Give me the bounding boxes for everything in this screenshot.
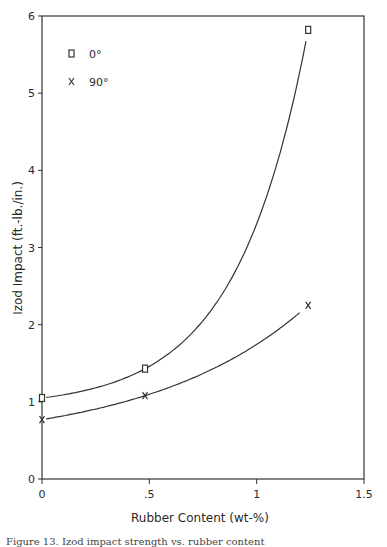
y-axis-title: Izod Impact (ft.-lb./in.) [11, 181, 25, 315]
y-tick-label: 3 [28, 242, 35, 255]
x-axis-title: Rubber Content (wt-%) [131, 511, 269, 525]
y-tick-label: 4 [28, 164, 35, 177]
square-marker [40, 394, 45, 401]
x-marker [306, 302, 311, 309]
y-tick-label: 0 [28, 473, 35, 486]
x-tick-label: .5 [144, 488, 155, 501]
fit-curve-90deg [46, 313, 299, 419]
y-tick-label: 2 [28, 319, 35, 332]
square-marker [143, 365, 148, 372]
figure-caption: Figure 13. Izod impact strength vs. rubb… [6, 536, 264, 547]
legend: 0° 90° [69, 48, 109, 89]
fit-curve-0deg [46, 41, 306, 397]
square-marker [306, 26, 311, 33]
fit-curves [46, 41, 306, 419]
x-axis: 0.511.5 [39, 479, 373, 501]
y-tick-label: 5 [28, 87, 35, 100]
x-tick-label: 1.5 [355, 488, 373, 501]
square-icon [69, 50, 74, 57]
y-tick-label: 6 [28, 10, 35, 23]
legend-label-0deg: 0° [89, 48, 102, 61]
x-tick-label: 1 [253, 488, 260, 501]
data-markers [40, 26, 311, 423]
x-tick-label: 0 [39, 488, 46, 501]
y-axis: 0123456 [28, 10, 42, 486]
y-tick-label: 1 [28, 396, 35, 409]
legend-label-90deg: 90° [89, 76, 109, 89]
x-icon [69, 78, 74, 85]
